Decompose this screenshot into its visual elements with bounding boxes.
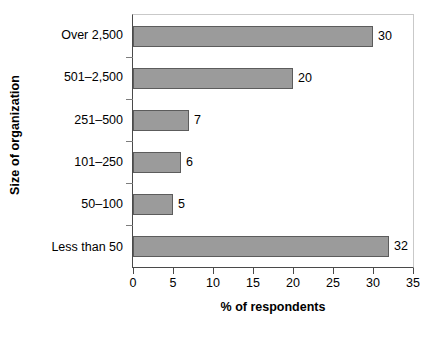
bar-value-label: 7 [194,114,201,127]
y-axis-tick-label: Less than 50 [26,226,128,268]
bar-value-label: 30 [378,30,392,43]
y-axis-tick-label: 50–100 [26,183,128,225]
y-axis-tick-mark [126,57,133,58]
x-axis-tick-label: 20 [273,276,313,290]
x-axis-tick-label: 35 [393,276,433,290]
bar-value-label: 6 [186,156,193,169]
x-axis-tick-label: 10 [193,276,233,290]
bar-row: 30 [133,15,413,57]
y-axis-tick-label: 251–500 [26,99,128,141]
x-axis-tick-label: 15 [233,276,273,290]
x-axis-tick-mark [213,268,214,274]
y-axis-tick-label: Over 2,500 [26,14,128,56]
y-axis-tick-label: 501–2,500 [26,56,128,98]
x-axis-tick-mark [333,268,334,274]
bar [133,68,293,89]
y-axis-title-text: Size of organization [8,75,22,195]
bar-row: 6 [133,141,413,183]
y-axis-tick-mark [126,141,133,142]
bar [133,194,173,215]
x-axis-tick-mark [173,268,174,274]
y-axis-category-labels: Over 2,500 501–2,500 251–500 101–250 50–… [26,14,128,268]
x-axis-tick-label: 5 [153,276,193,290]
x-axis-tick-mark [253,268,254,274]
x-axis-tick-label: 0 [113,276,153,290]
bar-row: 32 [133,225,413,267]
y-axis-tick-mark [126,183,133,184]
bar-row: 7 [133,99,413,141]
bar [133,152,181,173]
bar-chart: Size of organization Over 2,500 501–2,50… [0,0,448,339]
x-axis-tick-mark [413,268,414,274]
x-axis-title: % of respondents [132,300,414,314]
x-axis-tick-label: 30 [353,276,393,290]
y-axis-title: Size of organization [4,0,26,270]
bar-value-label: 5 [178,198,185,211]
x-axis-tick-mark [133,268,134,274]
bar-value-label: 32 [394,240,408,253]
bar-value-label: 20 [298,72,312,85]
bar-row: 20 [133,57,413,99]
x-axis-tick-label: 25 [313,276,353,290]
bar [133,26,373,47]
bar-row: 5 [133,183,413,225]
y-axis-tick-mark [126,225,133,226]
plot-area: 30 20 7 6 5 32 [133,15,413,267]
x-axis-tick-mark [373,268,374,274]
y-axis-tick-label: 101–250 [26,141,128,183]
bar [133,236,389,257]
y-axis-tick-mark [126,99,133,100]
bar [133,110,189,131]
x-axis-tick-mark [293,268,294,274]
